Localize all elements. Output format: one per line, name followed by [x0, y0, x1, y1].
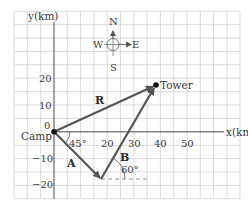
- compass-north: N: [109, 16, 118, 27]
- vector-b-label: B: [120, 151, 129, 164]
- vector-diagram: y(km) x(km) 20 30 40 50 20 10 0 −10 −20 …: [0, 0, 248, 212]
- vector-a-label: A: [66, 157, 76, 170]
- x-tick-30: 30: [128, 138, 141, 149]
- y-tick-10: 10: [39, 100, 52, 111]
- camp-label: Camp: [21, 130, 52, 142]
- tower-label: Tower: [160, 79, 194, 91]
- angle-45-label: 45°: [69, 138, 87, 149]
- tower-point: [153, 82, 159, 88]
- compass-east: E: [132, 39, 139, 50]
- y-tick-neg20: −20: [32, 179, 53, 190]
- y-tick-neg10: −10: [32, 153, 53, 164]
- x-tick-50: 50: [181, 138, 194, 149]
- x-tick-40: 40: [154, 138, 167, 149]
- y-tick-20: 20: [39, 73, 52, 84]
- x-tick-20: 20: [101, 138, 114, 149]
- y-axis-label: y(km): [27, 10, 58, 22]
- x-axis-label: x(km): [226, 126, 248, 138]
- compass-south: S: [110, 62, 117, 73]
- angle-60-label: 60°: [121, 164, 139, 175]
- vector-r-label: R: [95, 94, 105, 107]
- compass-west: W: [93, 39, 104, 50]
- camp-point: [51, 129, 57, 135]
